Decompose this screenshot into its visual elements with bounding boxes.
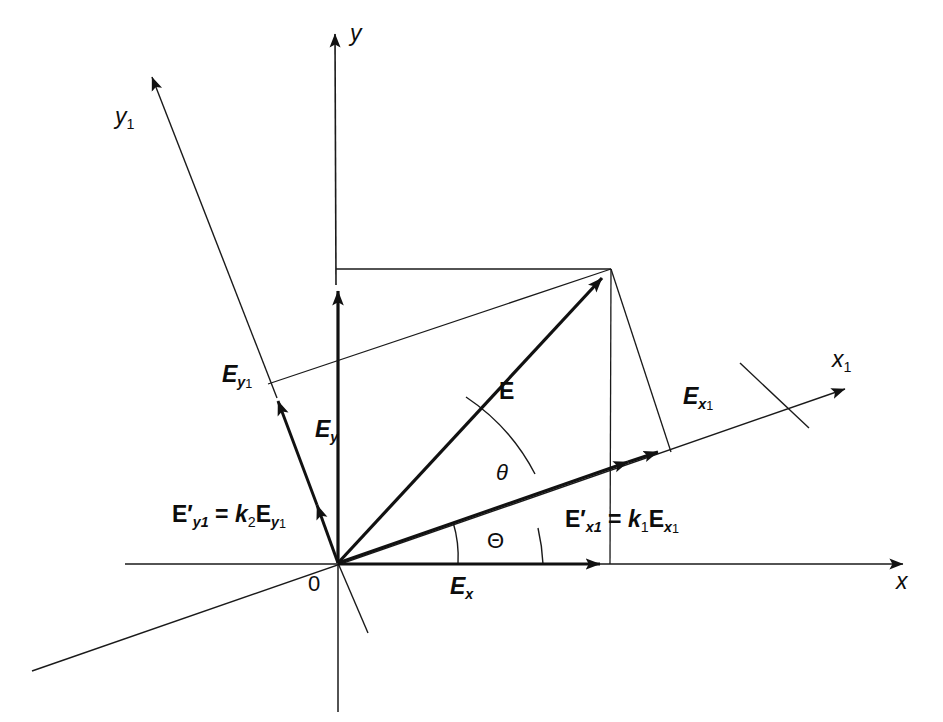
vector-diagram: x y x1 y1 0 Θ θ E Ex Ey Ex1 Ey1 E′y1 = k… [0,0,943,722]
eq-x1-rhs: E [649,506,664,532]
eq-x1-rhs-sub: x [664,519,672,535]
eq-y1-coef-sub: 2 [248,514,256,530]
angle-arc-theta-outer [538,528,543,564]
vector-Ex1-label: Ex1 [683,385,713,408]
eq-x1-coef: k [628,506,641,532]
eq-y1-coef: k [235,501,248,527]
y1-axis-positive-line [152,77,277,398]
angle-arc-theta-capital [453,522,458,564]
y1-axis-negative-line [338,563,368,633]
vector-Ex-label: Ex [450,575,473,598]
vector-Ey1 [278,401,317,505]
vector-Ex1-label-sub2: 1 [706,399,713,413]
eq-y1-lhs-sub: y1 [193,514,209,530]
eq-x1-equals: = [608,506,621,532]
eq-x1-rhs-sub2: 1 [672,522,679,536]
x1-axis-label-sub: 1 [844,359,852,375]
vector-Ey1-label: Ey1 [222,363,252,386]
y-axis-positive-line [335,34,336,285]
y1-axis-label: y1 [115,105,134,128]
eq-y1-equals: = [215,501,228,527]
vector-E-label: E [499,380,514,403]
y1-axis-label-sub: 1 [127,116,135,132]
x1-axis-label-base: x [832,346,844,372]
vector-Ex-label-base: E [450,573,465,599]
projection-E-to-x1-axis [611,269,671,452]
vector-Ex-label-sub: x [465,586,473,602]
vector-Ey1-label-sub2: 1 [245,377,252,391]
vector-Ey-label: Ey [315,418,338,441]
equation-E-prime-x1: E′x1 = k1Ex1 [565,508,679,531]
axis-lines [32,34,903,712]
y1-axis-crossing-segment [740,363,809,428]
y1-axis-label-base: y [115,103,127,129]
eq-y1-rhs: E [256,501,271,527]
diagram-canvas [0,0,943,722]
eq-x1-lhs-sub: x1 [586,519,602,535]
eq-y1-rhs-sub: y [271,514,279,530]
vector-Ex1 [628,452,658,462]
vector-Ey-label-base: E [315,416,330,442]
vector-Ex1-label-base: E [683,383,698,409]
vector-E-prime-y1 [317,505,338,563]
x1-axis-line [32,389,845,671]
projection-E-to-y1-axis [268,269,611,384]
angle-theta-lower-label: θ [496,462,508,484]
x-axis-label: x [896,570,908,593]
eq-x1-lhs: E [565,506,580,532]
x1-axis-label: x1 [832,348,851,371]
y-axis-label: y [350,22,362,45]
angle-theta-capital-label: Θ [487,530,504,552]
equation-E-prime-y1: E′y1 = k2Ey1 [172,503,286,526]
vector-E [338,278,602,563]
vector-Ey-label-sub: y [330,429,338,445]
eq-y1-lhs: E [172,501,187,527]
origin-label: 0 [308,573,320,595]
vector-Ey1-label-base: E [222,361,237,387]
eq-y1-rhs-sub2: 1 [279,517,286,531]
eq-x1-coef-sub: 1 [641,519,649,535]
